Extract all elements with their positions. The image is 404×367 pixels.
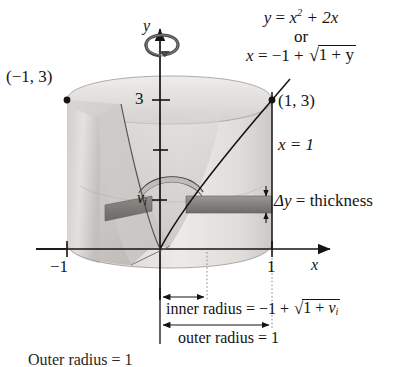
rotation-arrow-icon: [146, 35, 178, 57]
radicand-subscript: i: [336, 306, 339, 317]
thickness-text: thickness: [310, 191, 373, 210]
y-axis-label: y: [143, 18, 150, 34]
line-label-x-equals-1: x = 1: [278, 136, 314, 153]
y-tick-label-3: 3: [135, 90, 144, 107]
point-label-right: (1, 3): [278, 92, 315, 109]
curve-equation-line1: y = x2 + 2x: [206, 8, 396, 26]
curve-equation-connector: or: [206, 28, 396, 45]
inner-radius-radical: √1 + vi: [293, 300, 340, 318]
curve-equation-label: y = x2 + 2x or x = −1 + √1 + y: [206, 8, 396, 64]
solid-of-revolution: [67, 76, 272, 268]
exponent-2: 2: [297, 7, 302, 18]
curve-equation-line3: x = −1 + √1 + y: [206, 46, 396, 64]
x-tick-label-neg1: −1: [50, 258, 68, 275]
point-marker-left: [64, 97, 71, 104]
point-label-left: (−1, 3): [6, 68, 52, 85]
outer-radius-label: outer radius = 1: [178, 330, 279, 346]
inner-radius-label: inner radius = −1 + √1 + vi: [166, 300, 340, 318]
x-axis-label: x: [311, 257, 318, 273]
thickness-label: Δy = thickness: [274, 192, 373, 209]
slab-right: [186, 196, 272, 213]
vi-subscript: i: [144, 196, 147, 207]
radicand: 1 + y: [319, 45, 354, 64]
radical-group: √1 + y: [308, 46, 356, 64]
delta-y-symbol: Δy: [274, 191, 292, 210]
x-tick-label-1: 1: [267, 258, 276, 275]
cylinder-left-wall: [67, 100, 100, 263]
point-marker-right: [269, 97, 276, 104]
y-tick-label-vi: vi: [137, 190, 147, 207]
footer-cut-text: Outer radius = 1: [28, 352, 133, 367]
